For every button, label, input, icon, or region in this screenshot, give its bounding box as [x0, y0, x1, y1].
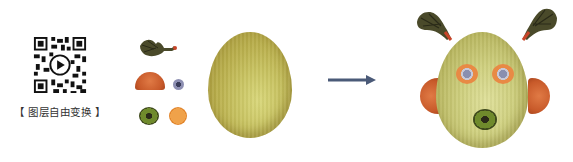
- left-hair-icon: [415, 8, 455, 42]
- orange-slice-part: [169, 107, 187, 125]
- right-ear: [528, 78, 550, 114]
- melon-face: [436, 32, 528, 148]
- left-eye: [456, 64, 478, 84]
- right-eye: [492, 64, 514, 84]
- qr-code-icon: [32, 35, 88, 95]
- kiwi-slice-part: [139, 107, 159, 125]
- eyeball-part: [173, 79, 184, 90]
- melon-part: [208, 32, 292, 138]
- fruit-face-composite: [405, 4, 565, 160]
- hair-tuft-icon: [138, 36, 180, 60]
- caption-free-transform: 【 图层自由变换 】: [14, 104, 114, 119]
- qr-code[interactable]: [32, 35, 88, 95]
- ear-slice-part: [135, 72, 165, 90]
- hair-tuft-part: [138, 36, 180, 60]
- arrow-right-icon: [328, 70, 376, 80]
- kiwi-mouth: [473, 109, 497, 130]
- right-hair-icon: [517, 6, 559, 42]
